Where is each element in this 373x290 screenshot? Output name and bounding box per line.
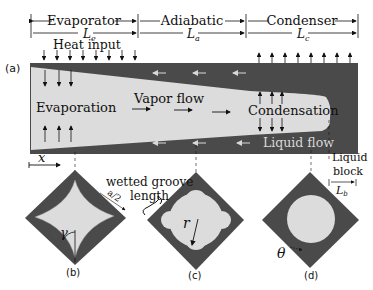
x-axis-label: x <box>38 150 46 165</box>
heat-pipe-diagram: Evaporator Adiabatic Condenser Le La Lc … <box>0 0 373 290</box>
wetted-groove-label-1: wetted groove <box>106 175 193 189</box>
liquid-flow-label: Liquid flow <box>263 135 334 150</box>
condensation-label: Condensation <box>248 103 339 118</box>
heat-output-arrows <box>259 53 350 63</box>
panel-c-label: (c) <box>188 270 201 281</box>
lc-label: Lc <box>296 27 310 43</box>
adiabatic-label: Adiabatic <box>160 13 223 28</box>
heat-input-label: Heat input <box>53 37 121 52</box>
gamma-label: γ <box>60 225 68 240</box>
wetted-groove-label-2: length <box>130 189 169 203</box>
panel-d-label: (d) <box>304 270 318 281</box>
condenser-label: Condenser <box>266 13 338 28</box>
theta-label: θ <box>277 245 286 261</box>
liquid-block-label-1: Liquid <box>332 151 368 164</box>
panel-a-label: (a) <box>5 62 20 75</box>
la-label: La <box>186 27 200 43</box>
evaporation-label: Evaporation <box>36 100 117 115</box>
vapor-flow-label: Vapor flow <box>133 91 204 106</box>
liquid-block-label-2: block <box>333 165 363 178</box>
lb-label: Lb <box>335 184 348 198</box>
evaporator-label: Evaporator <box>47 13 122 28</box>
panel-b-label: (b) <box>66 267 80 278</box>
